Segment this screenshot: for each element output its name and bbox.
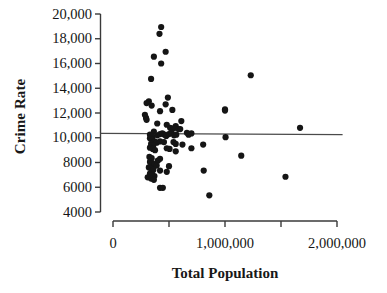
data-point <box>161 139 167 145</box>
data-point <box>206 192 212 198</box>
data-point <box>149 102 155 108</box>
data-point <box>163 101 169 107</box>
data-point <box>169 107 175 113</box>
data-point <box>157 167 163 173</box>
data-points <box>142 24 303 198</box>
data-point <box>165 94 171 100</box>
regression-line-path <box>101 133 343 134</box>
regression-line <box>101 133 343 134</box>
x-axis <box>113 221 337 227</box>
data-point <box>160 185 166 191</box>
data-point <box>200 141 206 147</box>
data-point <box>297 125 303 131</box>
plot-canvas <box>0 0 387 293</box>
data-point <box>151 54 157 60</box>
scatter-plot-figure: Crime Rate 20,00018,00016,00014,00012,00… <box>0 0 387 293</box>
data-point <box>201 167 207 173</box>
data-point <box>179 141 185 147</box>
data-point <box>164 169 170 175</box>
data-point <box>154 120 160 126</box>
data-point <box>157 108 163 114</box>
data-point <box>222 134 228 140</box>
data-point <box>222 107 228 113</box>
data-point <box>173 148 179 154</box>
data-point <box>177 126 183 132</box>
data-point <box>238 153 244 159</box>
data-point <box>158 60 164 66</box>
data-point <box>144 117 150 123</box>
data-point <box>158 24 164 30</box>
data-point <box>151 177 157 183</box>
data-point <box>188 145 194 151</box>
y-axis <box>95 14 101 212</box>
data-point <box>156 31 162 37</box>
data-point <box>178 118 184 124</box>
data-point <box>173 132 179 138</box>
data-point <box>166 146 172 152</box>
data-point <box>163 49 169 55</box>
data-point <box>248 72 254 78</box>
data-point <box>282 174 288 180</box>
data-point <box>166 163 172 169</box>
data-point <box>152 147 158 153</box>
data-point <box>173 141 179 147</box>
data-point <box>148 76 154 82</box>
data-point <box>186 132 192 138</box>
